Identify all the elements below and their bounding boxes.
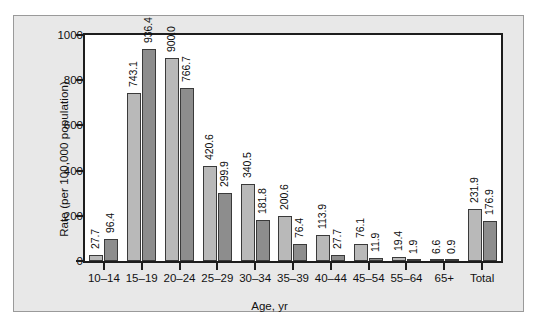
bar-group: 113.927.7 [312, 35, 350, 261]
x-tick-mark [443, 263, 445, 270]
bar-value-label: 936.4 [142, 18, 154, 44]
x-tick-mark [292, 263, 294, 270]
figure: Age, yr Men Women Rate (per 100,000 popu… [0, 0, 537, 330]
bar-men[interactable] [89, 255, 103, 261]
bar-group: 6.60.9 [425, 35, 463, 261]
x-tick-mark [481, 263, 483, 270]
bar-value-label: 766.7 [180, 56, 192, 82]
bar-value-label: 299.9 [218, 161, 230, 187]
x-tick-label: 15–19 [126, 272, 158, 284]
bar-women[interactable] [142, 49, 156, 261]
bar-women[interactable] [293, 244, 307, 261]
x-axis: 10–1415–1920–2425–2930–3435–3940–4445–54… [83, 263, 503, 293]
bar-value-label: 200.6 [278, 184, 290, 210]
bar-value-label: 0.9 [445, 239, 457, 253]
bar-group: 900.0766.7 [161, 35, 199, 261]
x-tick-label: 20–24 [164, 272, 196, 284]
bar-men[interactable] [430, 259, 444, 261]
y-tick-mark [76, 34, 83, 36]
bar-men[interactable] [354, 244, 368, 261]
bar-men[interactable] [468, 209, 482, 261]
bar-men[interactable] [392, 257, 406, 261]
bar-value-label: 340.5 [241, 152, 253, 178]
x-tick-label: 10–14 [88, 272, 120, 284]
x-axis-title: Age, yr [14, 300, 525, 312]
bar-value-label: 27.7 [331, 229, 343, 249]
bar-value-label: 743.1 [127, 61, 139, 87]
bar-men[interactable] [203, 166, 217, 261]
x-tick-label: 40–44 [315, 272, 347, 284]
y-tick-mark [76, 170, 83, 172]
bar-container: 27.796.4743.1936.4900.0766.7420.6299.934… [85, 35, 501, 261]
bar-value-label: 113.9 [316, 204, 328, 229]
bar-group: 231.9176.9 [463, 35, 501, 261]
x-tick-label: Total [470, 272, 494, 284]
bar-value-label: 76.4 [293, 218, 305, 238]
y-tick-mark [76, 79, 83, 81]
bar-women[interactable] [218, 193, 232, 261]
bar-women[interactable] [331, 255, 345, 261]
bar-men[interactable] [165, 58, 179, 261]
bar-value-label: 181.8 [256, 188, 268, 214]
bar-group: 27.796.4 [85, 35, 123, 261]
bar-men[interactable] [241, 184, 255, 261]
x-tick-label: 45–54 [353, 272, 385, 284]
x-tick-mark [330, 263, 332, 270]
bar-value-label: 76.1 [354, 218, 366, 238]
bar-group: 200.676.4 [274, 35, 312, 261]
bar-value-label: 900.0 [165, 26, 177, 52]
bar-men[interactable] [127, 93, 141, 261]
y-tick-mark [76, 260, 83, 262]
bar-group: 743.1936.4 [123, 35, 161, 261]
x-tick-mark [141, 263, 143, 270]
x-tick-mark [368, 263, 370, 270]
bar-value-label: 1.9 [407, 239, 419, 253]
bar-women[interactable] [407, 259, 421, 261]
x-tick-mark [103, 263, 105, 270]
x-tick-label: 25–29 [201, 272, 233, 284]
x-tick-mark [405, 263, 407, 270]
bar-group: 420.6299.9 [198, 35, 236, 261]
x-tick-label: 55–64 [390, 272, 422, 284]
x-tick-mark [254, 263, 256, 270]
bar-value-label: 6.6 [430, 239, 442, 253]
x-tick-label: 30–34 [239, 272, 271, 284]
x-tick-label: 35–39 [277, 272, 309, 284]
bar-group: 19.41.9 [388, 35, 426, 261]
bar-value-label: 420.6 [203, 134, 215, 160]
bar-value-label: 231.9 [468, 177, 480, 203]
bar-women[interactable] [445, 259, 459, 261]
bar-men[interactable] [278, 216, 292, 261]
bar-women[interactable] [256, 220, 270, 261]
bar-value-label: 19.4 [392, 231, 404, 251]
bar-value-label: 27.7 [89, 229, 101, 249]
y-tick-mark [76, 215, 83, 217]
bar-value-label: 11.9 [369, 233, 381, 252]
bar-women[interactable] [104, 239, 118, 261]
x-tick-mark [216, 263, 218, 270]
x-tick-label: 65+ [435, 272, 455, 284]
x-tick-mark [179, 263, 181, 270]
bar-value-label: 96.4 [104, 213, 116, 233]
bar-value-label: 176.9 [483, 189, 495, 215]
bar-men[interactable] [316, 235, 330, 261]
bar-women[interactable] [369, 258, 383, 261]
y-tick-mark [76, 124, 83, 126]
bar-women[interactable] [483, 221, 497, 261]
bar-group: 76.111.9 [350, 35, 388, 261]
y-axis: Rate (per 100,000 population) 0200400600… [30, 33, 83, 263]
bar-group: 340.5181.8 [236, 35, 274, 261]
bar-women[interactable] [180, 88, 194, 261]
